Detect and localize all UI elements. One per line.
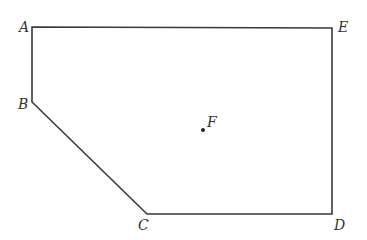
pentagon-ABCDE (32, 27, 332, 214)
vertex-label-E: E (337, 19, 348, 35)
point-F (201, 128, 205, 132)
vertex-label-B: B (17, 96, 28, 112)
pentagon-diagram: A E D C B F (0, 0, 367, 240)
vertex-label-D: D (333, 217, 345, 233)
point-label-F: F (206, 114, 218, 130)
vertex-label-A: A (17, 19, 29, 35)
vertex-label-C: C (138, 217, 149, 233)
